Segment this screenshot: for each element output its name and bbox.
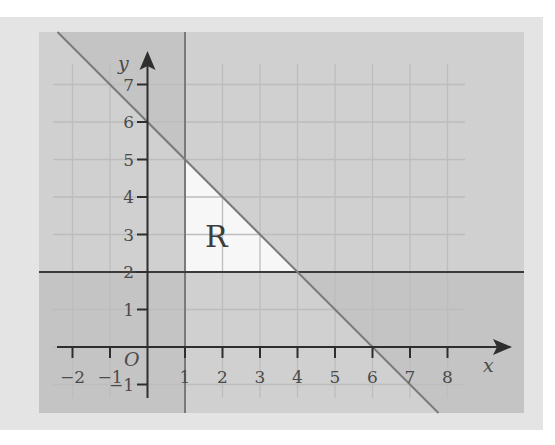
x-tick-label: 8: [442, 367, 453, 387]
origin-label: O: [124, 348, 140, 370]
y-tick-label: 3: [123, 225, 134, 245]
y-tick-label: 7: [123, 75, 134, 95]
y-tick-label: 6: [123, 112, 134, 132]
y-tick-label: 4: [123, 187, 134, 207]
y-tick-label: 1: [123, 300, 134, 320]
x-axis-label: x: [483, 354, 494, 376]
x-tick-label: 7: [405, 367, 416, 387]
y-tick-label: −1: [109, 375, 134, 395]
inequality-region-chart: −2−112345678−11234567 x y O R: [0, 0, 555, 445]
x-tick-label: 1: [180, 367, 191, 387]
x-tick-label: 5: [330, 367, 341, 387]
x-tick-label: 3: [255, 367, 266, 387]
x-tick-label: −2: [60, 367, 85, 387]
x-tick-label: 6: [367, 367, 378, 387]
x-tick-label: 2: [217, 367, 228, 387]
x-tick-label: 4: [292, 367, 303, 387]
y-tick-label: 2: [123, 262, 134, 282]
y-axis-label: y: [117, 52, 129, 74]
region-r-label: R: [205, 219, 229, 254]
y-tick-label: 5: [123, 150, 134, 170]
